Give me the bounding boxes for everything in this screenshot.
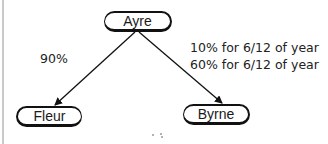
node-fleur-label: Fleur — [34, 108, 66, 124]
edge-label-line: 90% — [40, 50, 68, 67]
edge-label-line: 60% for 6/12 of year — [190, 56, 319, 73]
scan-speck — [152, 134, 154, 136]
edge-label-ayre-fleur: 90% — [40, 50, 68, 67]
node-ayre: Ayre — [104, 11, 172, 32]
scan-speck — [160, 133, 162, 135]
node-fleur: Fleur — [16, 106, 82, 127]
scan-speck — [161, 136, 163, 138]
edge-label-ayre-byrne: 10% for 6/12 of year 60% for 6/12 of yea… — [190, 39, 319, 73]
node-byrne: Byrne — [183, 104, 250, 125]
edge-ayre-to-fleur — [55, 32, 135, 105]
edge-label-line: 10% for 6/12 of year — [190, 39, 319, 56]
node-byrne-label: Byrne — [198, 106, 235, 122]
node-ayre-label: Ayre — [123, 13, 152, 29]
